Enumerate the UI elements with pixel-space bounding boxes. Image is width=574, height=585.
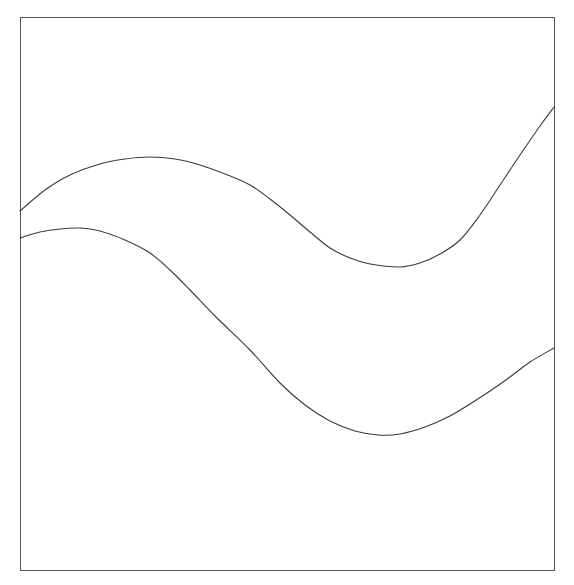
plot-area (0, 0, 574, 585)
figure-canvas (0, 0, 574, 585)
figure-background (0, 0, 574, 585)
